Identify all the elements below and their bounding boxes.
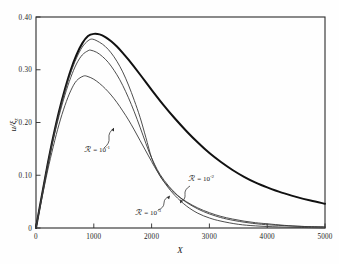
figure-container: 010002000300040005000 00.100.200.300.40 … [0,0,339,264]
data-curve-curve-r1 [36,76,325,228]
data-curve-curve-bold [36,34,325,228]
data-curve-curve-r3 [36,39,325,228]
curve-annotations: ℛ = 10-1ℛ = 10-2ℛ = 10-3 [84,128,215,217]
y-tick-label: 0.40 [19,14,33,22]
x-tick-label: 3000 [202,233,217,241]
x-tick-label: 5000 [317,233,332,241]
x-tick-label: 1000 [86,233,101,241]
ann-r-1e-1: ℛ = 10-1 [84,128,114,154]
y-axis-title-group: u/ξz [8,118,19,132]
y-tick-label: 0.10 [19,172,33,180]
y-tick-label: 0.30 [19,66,33,74]
y-axis-ticks: 00.100.200.300.40 [19,14,41,233]
annotation-text: ℛ = 10-2 [188,174,215,183]
ann-r-1e-2: ℛ = 10-2 [180,174,215,203]
y-tick-label: 0.20 [19,119,33,127]
x-axis-title: X [176,245,183,255]
y-tick-label: 0 [28,225,32,233]
y-axis-title: u/ξz [8,118,19,132]
chart-plot: 010002000300040005000 00.100.200.300.40 … [0,0,339,264]
x-tick-label: 4000 [260,233,275,241]
x-tick-label: 2000 [144,233,159,241]
ann-r-1e-3: ℛ = 10-3 [135,196,170,217]
x-tick-label: 0 [34,233,38,241]
annotation-text: ℛ = 10-1 [84,145,111,154]
annotation-text: ℛ = 10-3 [135,208,162,217]
data-curves [36,34,325,228]
